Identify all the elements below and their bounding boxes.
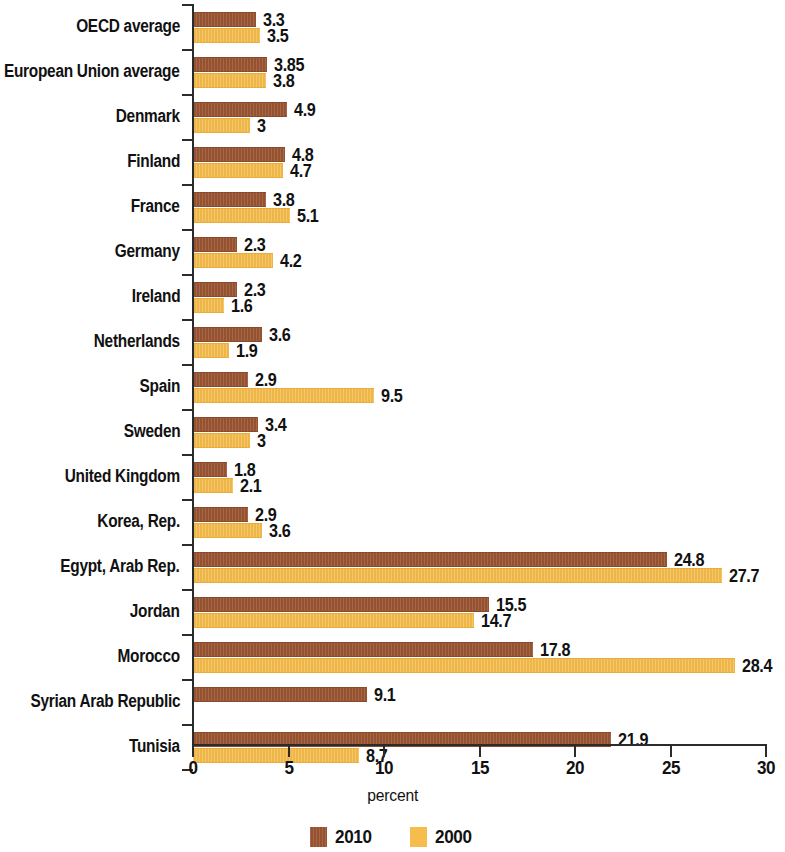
chart-row: Denmark4.93 <box>0 94 785 139</box>
bar-2010 <box>193 642 533 657</box>
chart-row: Finland4.84.7 <box>0 139 785 184</box>
bar-value-label: 3.6 <box>269 520 290 541</box>
bar-container: 3 <box>193 118 250 133</box>
bar-value-label: 1.9 <box>236 340 257 361</box>
bar-container: 1.8 <box>193 462 227 477</box>
chart-row: Jordan15.514.7 <box>0 589 785 634</box>
bar-container: 1.9 <box>193 343 229 358</box>
category-label: Korea, Rep. <box>97 499 180 544</box>
category-label: Germany <box>115 229 180 274</box>
chart-row: Germany2.34.2 <box>0 229 785 274</box>
y-axis-tick <box>182 139 193 141</box>
bar-value-label: 3 <box>257 430 266 451</box>
y-axis-tick <box>182 544 193 546</box>
bar-group: 17.828.4 <box>193 634 785 679</box>
bar-container: 3 <box>193 433 250 448</box>
bar-2000 <box>193 253 273 268</box>
legend-swatch-icon <box>310 827 327 847</box>
category-label: Egypt, Arab Rep. <box>61 544 180 589</box>
bar-container: 3.4 <box>193 417 258 432</box>
bar-2000 <box>193 163 283 178</box>
bar-container: 3.85 <box>193 57 267 72</box>
bar-container: 3.5 <box>193 28 260 43</box>
bar-2000 <box>193 748 359 763</box>
bar-container: 9.1 <box>193 687 367 702</box>
category-label: Morocco <box>118 634 180 679</box>
x-axis-tick <box>670 744 672 757</box>
bar-2010 <box>193 507 248 522</box>
bar-value-label: 4.7 <box>290 160 311 181</box>
x-axis-tick <box>479 744 481 757</box>
bar-group: 1.82.1 <box>193 454 785 499</box>
bar-value-label: 1.6 <box>231 295 252 316</box>
category-label: France <box>131 184 180 229</box>
bar-2000 <box>193 118 250 133</box>
legend-swatch-icon <box>410 827 427 847</box>
bar-2010 <box>193 12 256 27</box>
bar-2010 <box>193 237 237 252</box>
bar-value-label: 24.8 <box>674 549 704 570</box>
bar-2010 <box>193 147 285 162</box>
bar-container: 2.9 <box>193 507 248 522</box>
bar-2010 <box>193 597 489 612</box>
category-label: European Union average <box>4 49 180 94</box>
x-axis-tick-label: 25 <box>661 757 679 779</box>
bar-value-label: 9.1 <box>374 684 395 705</box>
y-axis-tick <box>182 184 193 186</box>
bar-group: 15.514.7 <box>193 589 785 634</box>
bar-value-label: 3 <box>257 115 266 136</box>
bar-2000 <box>193 523 262 538</box>
category-label: Denmark <box>116 94 180 139</box>
bar-2000 <box>193 208 290 223</box>
chart-row: Netherlands3.61.9 <box>0 319 785 364</box>
chart-row: European Union average3.853.8 <box>0 49 785 94</box>
x-axis-tick <box>765 744 767 757</box>
bar-group: 2.99.5 <box>193 364 785 409</box>
y-axis-tick <box>182 679 193 681</box>
bar-container: 4.2 <box>193 253 273 268</box>
chart-rows: OECD average3.33.5European Union average… <box>0 4 785 769</box>
bar-2000 <box>193 568 722 583</box>
bar-2000 <box>193 28 260 43</box>
y-axis-tick <box>182 724 193 726</box>
x-axis-tick-label: 0 <box>188 757 197 779</box>
x-axis-tick-label: 30 <box>757 757 775 779</box>
legend-item[interactable]: 2010 <box>310 826 376 848</box>
bar-group: 3.43 <box>193 409 785 454</box>
bar-group: 3.853.8 <box>193 49 785 94</box>
bar-2010 <box>193 417 258 432</box>
bar-2000 <box>193 613 474 628</box>
legend-label: 2000 <box>435 826 472 848</box>
bar-container: 3.8 <box>193 73 266 88</box>
bar-value-label: 14.7 <box>481 610 511 631</box>
x-axis-tick <box>288 744 290 757</box>
x-axis-tick-label: 10 <box>375 757 393 779</box>
x-axis-tick-label: 20 <box>566 757 584 779</box>
bar-2010 <box>193 57 267 72</box>
category-label: United Kingdom <box>65 454 180 499</box>
bar-value-label: 17.8 <box>540 639 570 660</box>
bar-value-label: 21.9 <box>618 729 648 750</box>
category-label: OECD average <box>76 4 180 49</box>
chart-row: Syrian Arab Republic9.1 <box>0 679 785 724</box>
bar-group: 24.827.7 <box>193 544 785 589</box>
x-axis-tick <box>192 744 194 757</box>
bar-value-label: 2.3 <box>244 234 265 255</box>
bar-container: 24.8 <box>193 552 667 567</box>
bar-group: 4.93 <box>193 94 785 139</box>
bar-container: 15.5 <box>193 597 489 612</box>
bar-2000 <box>193 73 266 88</box>
bar-container: 27.7 <box>193 568 722 583</box>
chart-row: United Kingdom1.82.1 <box>0 454 785 499</box>
y-axis-tick <box>182 94 193 96</box>
bar-value-label: 2.9 <box>255 369 276 390</box>
bar-container: 2.3 <box>193 237 237 252</box>
bar-2010 <box>193 462 227 477</box>
legend-item[interactable]: 2000 <box>410 826 476 848</box>
chart-row: Morocco17.828.4 <box>0 634 785 679</box>
chart-row: OECD average3.33.5 <box>0 4 785 49</box>
bar-value-label: 3.5 <box>267 25 288 46</box>
category-label: Finland <box>127 139 180 184</box>
category-label: Jordan <box>130 589 180 634</box>
y-axis-tick <box>182 229 193 231</box>
